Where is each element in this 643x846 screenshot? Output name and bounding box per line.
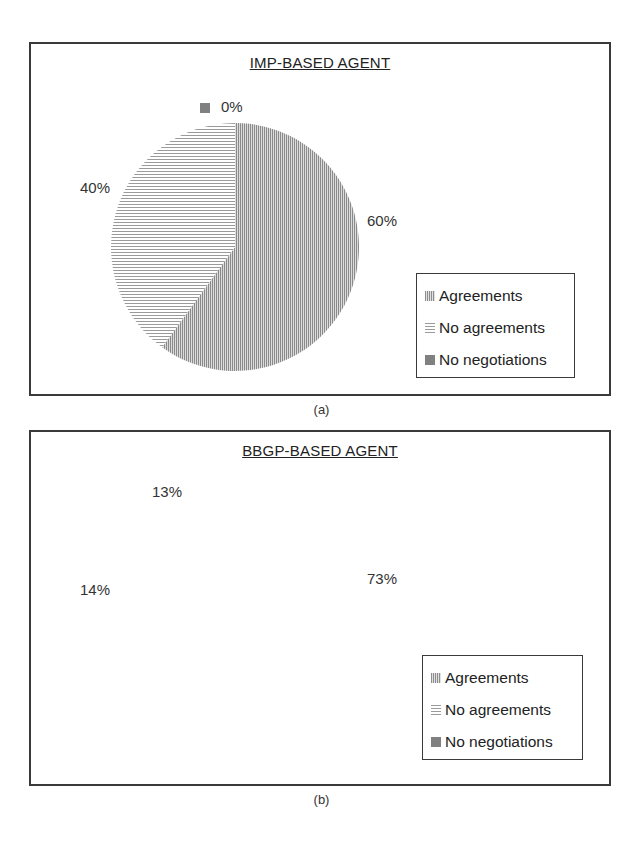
label-no-negotiations-bbgp: 13% — [152, 483, 182, 500]
solid-swatch-icon — [431, 737, 441, 747]
legend-item-no-agreements: No agreements — [431, 694, 576, 726]
legend-item-no-negotiations: No negotiations — [425, 344, 568, 376]
legend-label: Agreements — [445, 669, 529, 687]
zero-slice-marker-icon — [200, 103, 210, 113]
legend-bbgp: Agreements No agreements No negotiations — [422, 655, 583, 760]
solid-swatch-icon — [425, 355, 435, 365]
horizontal-hatch-swatch-icon — [425, 323, 435, 333]
legend-item-no-negotiations: No negotiations — [431, 726, 576, 758]
label-no-negotiations-imp: 0% — [221, 98, 243, 115]
caption-a: (a) — [0, 402, 643, 417]
vertical-hatch-swatch-icon — [425, 291, 435, 301]
horizontal-hatch-swatch-icon — [431, 705, 441, 715]
chart-title-bbgp: BBGP-BASED AGENT — [31, 442, 609, 459]
legend-label: No agreements — [445, 701, 551, 719]
legend-label: Agreements — [439, 287, 523, 305]
label-agreements-imp: 60% — [367, 212, 397, 229]
vertical-hatch-swatch-icon — [431, 673, 441, 683]
legend-item-agreements: Agreements — [425, 280, 568, 312]
caption-b: (b) — [0, 792, 643, 807]
legend-label: No negotiations — [439, 351, 547, 369]
legend-imp: Agreements No agreements No negotiations — [416, 273, 575, 378]
legend-label: No agreements — [439, 319, 545, 337]
label-no-agreements-bbgp: 14% — [80, 581, 110, 598]
legend-label: No negotiations — [445, 733, 553, 751]
label-agreements-bbgp: 73% — [367, 570, 397, 587]
legend-item-agreements: Agreements — [431, 662, 576, 694]
label-no-agreements-imp: 40% — [80, 179, 110, 196]
legend-item-no-agreements: No agreements — [425, 312, 568, 344]
